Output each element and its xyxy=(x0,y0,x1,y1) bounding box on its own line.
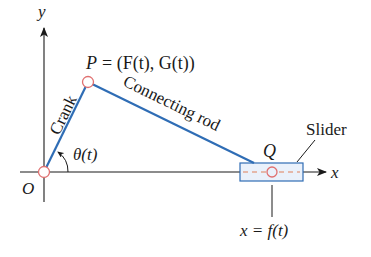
point-p-joint xyxy=(83,77,94,88)
point-p-equation: = (F(t), G(t)) xyxy=(102,53,195,74)
point-q-joint xyxy=(267,167,277,177)
x-axis-label: x xyxy=(330,163,339,182)
origin-joint xyxy=(39,167,50,178)
slider-leader-line xyxy=(297,140,315,162)
point-p-label: P xyxy=(85,53,97,73)
slider-position-equation: x = f(t) xyxy=(239,221,289,240)
point-q-label: Q xyxy=(263,141,276,161)
origin-label: O xyxy=(22,179,34,198)
angle-arc xyxy=(58,152,68,172)
crank-slider-diagram: y x O P = (F(t), G(t)) Q Crank Connectin… xyxy=(0,0,371,257)
slider-label: Slider xyxy=(306,120,347,139)
angle-label: θ(t) xyxy=(73,145,98,164)
y-axis-label: y xyxy=(36,2,46,21)
connecting-rod-label: Connecting rod xyxy=(120,72,223,135)
crank-label: Crank xyxy=(46,92,82,138)
